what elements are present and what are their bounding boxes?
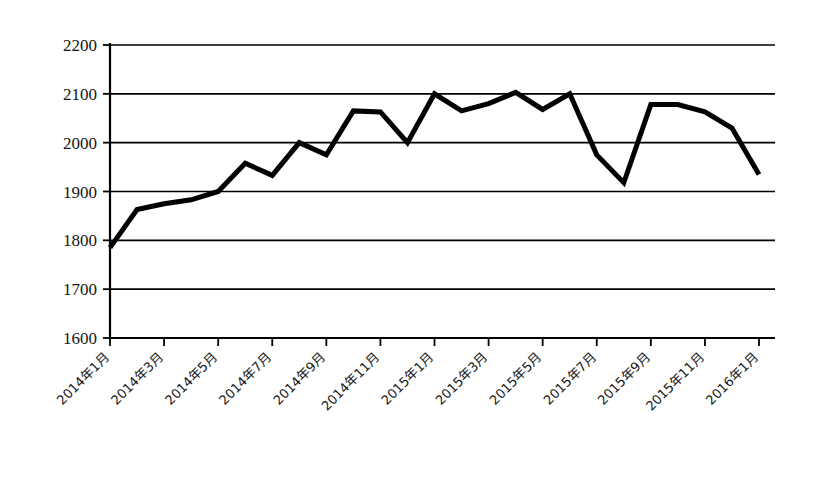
y-axis-tick-label: 2200 (63, 36, 97, 55)
chart-background (0, 0, 820, 478)
y-axis-tick-label: 1700 (63, 280, 97, 299)
chart-canvas: 2200210020001900180017001600 2014年1月2014… (0, 0, 820, 478)
y-axis-tick-label: 1800 (63, 231, 97, 250)
y-axis-tick-label: 2000 (63, 134, 97, 153)
y-axis-tick-label: 2100 (63, 85, 97, 104)
y-axis-tick-label: 1900 (63, 183, 97, 202)
y-axis-tick-label: 1600 (63, 329, 97, 348)
line-chart: 2200210020001900180017001600 2014年1月2014… (0, 0, 820, 478)
